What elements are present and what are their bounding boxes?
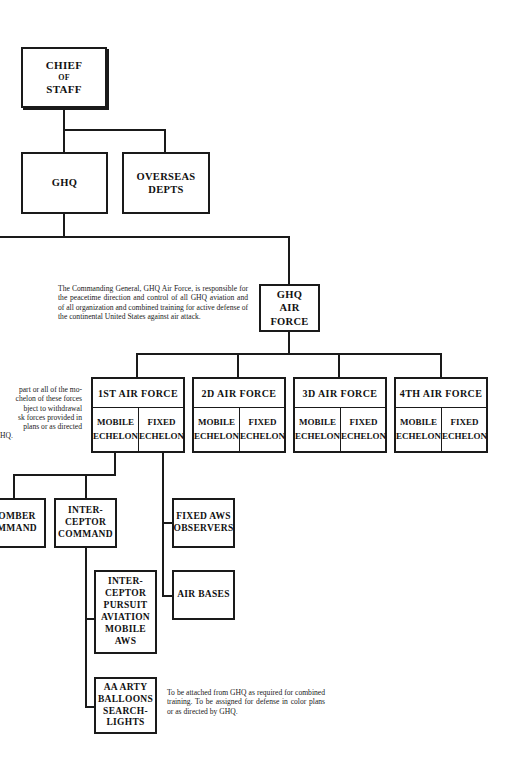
mobile-echelon: MOBILEECHELON [194,408,239,452]
ghq-air-force-note: The Commanding General, GHQ Air Force, i… [58,284,248,321]
interceptor-label-2: CEPTOR [58,517,113,529]
overseas-label-2: DEPTS [136,183,195,196]
interceptor-label-3: COMMAND [58,529,113,541]
left-note-line: plans or as directed [0,422,82,431]
pursuit-label: MOBILE [101,624,150,636]
connector-air-bases [162,595,172,597]
left-note-line: chelon of these forces [0,394,82,403]
air-force-name: 3D AIR FORCE [295,379,385,408]
pursuit-label: AVIATION [101,612,150,624]
connector-mobile-horizontal [13,474,116,476]
pursuit-label: PURSUIT [101,600,150,612]
connector-interceptor-down [85,548,87,708]
bomber-label-1: OMBER [0,511,37,523]
overseas-depts-box: OVERSEAS DEPTS [122,152,210,214]
connector-ghqaf-down [288,236,290,284]
connector-af1 [136,353,138,377]
left-note-line: part or all of the mo- [0,385,82,394]
chief-label-1: CHIEF [46,59,82,73]
fixed-echelon: FIXEDECHELON [239,408,285,452]
aa-arty-label: SEARCH- [98,706,153,718]
fixed-echelon: FIXEDECHELON [340,408,386,452]
fixed-echelon: FIXEDECHELON [441,408,487,452]
connector-main-horizontal [0,236,290,238]
aa-arty-label: AA ARTY [98,682,153,694]
connector-af2 [237,353,239,377]
overseas-label-1: OVERSEAS [136,170,195,183]
connector-bomber [13,474,15,498]
connector-overseas-down [164,129,166,152]
bomber-label-2: MMAND [0,523,37,535]
connector-ghqaf-bottom [288,331,290,355]
ghqaf-label-1: GHQ [270,288,308,301]
connector-fixed-aws [162,522,172,524]
pursuit-label: INTER- [101,576,150,588]
bomber-command-box: OMBER MMAND [0,498,46,548]
mobile-echelon: MOBILEECHELON [93,408,138,452]
ghq-box: GHQ [21,152,108,214]
chief-label-3: STAFF [46,83,82,97]
air-force-box-3: 3D AIR FORCE MOBILEECHELON FIXEDECHELON [293,377,387,453]
connector-af3 [338,353,340,377]
air-bases-box: AIR BASES [172,570,235,620]
mobile-echelon: MOBILEECHELON [295,408,340,452]
connector-fixed-down [162,452,164,597]
air-force-box-2: 2D AIR FORCE MOBILEECHELON FIXEDECHELON [192,377,286,453]
connector-interceptor [85,474,87,498]
interceptor-pursuit-box: INTER- CEPTOR PURSUIT AVIATION MOBILE AW… [94,570,157,654]
aa-arty-label: BALLOONS [98,694,153,706]
pursuit-label: AWS [101,636,150,648]
ghq-air-force-box: GHQ AIR FORCE [259,284,320,332]
chief-of-staff-box: CHIEF OF STAFF [21,47,107,108]
connector-ghq-down [63,213,65,238]
air-force-name: 4TH AIR FORCE [396,379,486,408]
left-note-line: bject to withdrawal [0,404,82,413]
fixed-aws-observers-box: FIXED AWS OBSERVERS [172,498,235,548]
interceptor-command-box: INTER- CEPTOR COMMAND [54,498,117,548]
aa-arty-label: LIGHTS [98,717,153,729]
air-force-name: 2D AIR FORCE [194,379,284,408]
left-note: part or all of the mo- chelon of these f… [0,385,82,441]
connector-mobile-down [114,452,116,476]
ghqaf-label-2: AIR [270,301,308,314]
ghqaf-label-3: FORCE [270,315,308,328]
fixed-echelon: FIXEDECHELON [138,408,184,452]
air-bases-label: AIR BASES [177,589,230,601]
left-note-line: sk forces provided in [0,413,82,422]
air-force-box-4: 4TH AIR FORCE MOBILEECHELON FIXEDECHELON [394,377,488,453]
connector-chief-overseas [63,129,166,131]
aa-arty-note: To be attached from GHQ as required for … [167,688,325,716]
chief-label-2: OF [46,73,82,83]
air-force-name: 1ST AIR FORCE [93,379,183,408]
interceptor-label-1: INTER- [58,505,113,517]
pursuit-label: CEPTOR [101,588,150,600]
connector-af-horizontal [136,353,442,355]
aa-arty-box: AA ARTY BALLOONS SEARCH- LIGHTS [94,677,157,734]
fixed-aws-label-1: FIXED AWS [174,511,234,523]
ghq-label: GHQ [52,176,77,189]
mobile-echelon: MOBILEECHELON [396,408,441,452]
fixed-aws-label-2: OBSERVERS [174,523,234,535]
left-note-line: HQ. [0,431,82,440]
air-force-box-1: 1ST AIR FORCE MOBILEECHELON FIXEDECHELON [91,377,185,453]
connector-af4 [440,353,442,377]
